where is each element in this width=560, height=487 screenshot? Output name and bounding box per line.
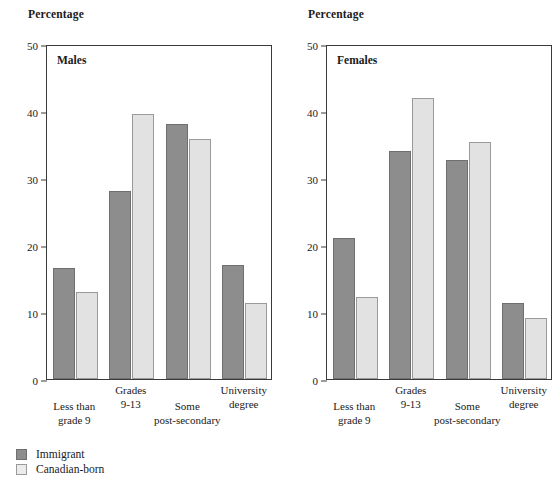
bar-immigrant-2 <box>446 160 468 379</box>
chart-panel-females: Percentage Females 01020304050 Less than… <box>280 0 560 440</box>
bar-immigrant-0 <box>333 238 355 379</box>
legend-swatch-canadian-born <box>16 464 27 475</box>
legend-swatch-immigrant <box>16 449 27 460</box>
x-axis-label-2: Somepost-secondary <box>154 400 221 427</box>
legend-item-canadian-born: Canadian-born <box>16 462 104 477</box>
chart-panel-males: Percentage Males 01020304050 Less thangr… <box>0 0 280 440</box>
x-axis-labels-males: Less thangrade 9Grades9-13Somepost-secon… <box>46 382 272 440</box>
y-tick-label-20: 20 <box>278 242 327 253</box>
y-tick-label-40: 40 <box>278 108 327 119</box>
x-axis-label-2: Somepost-secondary <box>434 400 501 427</box>
x-axis-label-0: Less thangrade 9 <box>333 400 375 427</box>
x-axis-label-1: Grades9-13 <box>115 384 146 411</box>
y-tick-label-10: 10 <box>0 309 47 320</box>
x-axis-labels-females: Less thangrade 9Grades9-13Somepost-secon… <box>326 382 552 440</box>
bar-canadian-born-2 <box>189 139 211 379</box>
bar-immigrant-2 <box>166 124 188 379</box>
bar-canadian-born-2 <box>469 142 491 379</box>
axis-title-percentage-males: Percentage <box>28 8 84 20</box>
bar-canadian-born-0 <box>76 292 98 379</box>
bars-males <box>47 46 271 379</box>
bar-canadian-born-0 <box>356 297 378 379</box>
bar-immigrant-1 <box>109 191 131 379</box>
x-axis-label-1: Grades9-13 <box>395 384 426 411</box>
bar-canadian-born-3 <box>525 318 547 379</box>
legend-item-immigrant: Immigrant <box>16 447 104 462</box>
legend-label-immigrant: Immigrant <box>36 447 85 462</box>
x-axis-label-0: Less thangrade 9 <box>53 400 95 427</box>
legend-label-canadian-born: Canadian-born <box>36 462 104 477</box>
bar-canadian-born-3 <box>245 303 267 379</box>
plot-area-females: Females 01020304050 <box>326 45 552 380</box>
x-axis-label-3: Universitydegree <box>501 384 547 411</box>
y-tick-label-40: 40 <box>0 108 47 119</box>
y-tick-label-50: 50 <box>278 41 327 52</box>
y-tick-label-50: 50 <box>0 41 47 52</box>
y-tick-label-30: 30 <box>0 175 47 186</box>
bar-immigrant-1 <box>389 151 411 379</box>
y-tick-label-20: 20 <box>0 242 47 253</box>
bar-immigrant-3 <box>222 265 244 379</box>
bar-immigrant-0 <box>53 268 75 379</box>
x-axis-label-3: Universitydegree <box>221 384 267 411</box>
bar-canadian-born-1 <box>132 114 154 379</box>
plot-area-males: Males 01020304050 <box>46 45 272 380</box>
y-tick-label-0: 0 <box>0 376 47 387</box>
axis-title-percentage-females: Percentage <box>308 8 364 20</box>
bars-females <box>327 46 551 379</box>
legend: Immigrant Canadian-born <box>16 447 104 477</box>
y-tick-label-0: 0 <box>278 376 327 387</box>
y-tick-label-10: 10 <box>278 309 327 320</box>
figure-bar-chart-pair: Percentage Males 01020304050 Less thangr… <box>0 0 560 487</box>
y-tick-label-30: 30 <box>278 175 327 186</box>
bar-canadian-born-1 <box>412 98 434 379</box>
bar-immigrant-3 <box>502 303 524 379</box>
